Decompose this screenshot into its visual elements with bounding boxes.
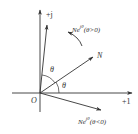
vector-rotated-positive-label: Nejθ(θ>0) [72, 24, 100, 34]
complex-plane-diagram [0, 0, 138, 134]
origin-label: O [31, 97, 37, 105]
rotation-arrow-icon [68, 32, 82, 46]
angle-arc-lower [56, 82, 59, 93]
vector-rotated-negative-label: Nejθ(θ<0) [78, 116, 106, 126]
real-axis-label: +1 [122, 98, 131, 106]
vector-n-label: N [97, 52, 102, 60]
angle-label-upper: θ [50, 66, 54, 74]
angle-label-lower: θ [62, 82, 66, 90]
vector-rotated-positive [40, 25, 47, 93]
angle-arc-upper [42, 75, 55, 83]
vector-n [40, 57, 93, 93]
vector-rotated-negative-base: Ne [78, 118, 86, 126]
imaginary-axis-label: +j [46, 11, 53, 19]
vector-rotated-positive-condition: (θ>0) [84, 26, 100, 34]
vector-rotated-negative [40, 93, 101, 110]
vector-rotated-positive-base: Ne [72, 26, 80, 34]
vector-rotated-negative-condition: (θ<0) [90, 118, 106, 126]
